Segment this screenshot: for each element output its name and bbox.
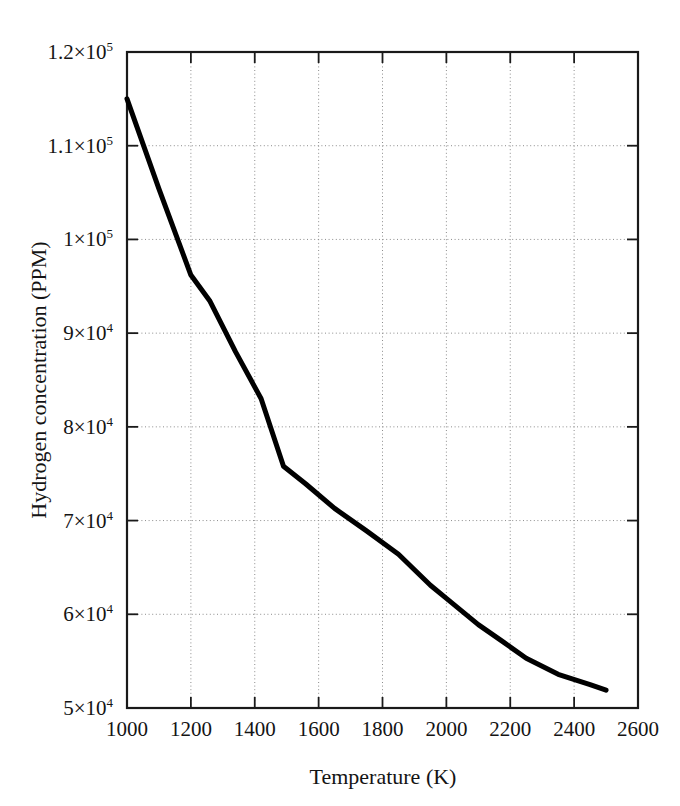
y-tick-exponent: 5 <box>107 226 114 241</box>
y-tick-label: 1.1×105 <box>47 133 113 158</box>
x-tick-label: 1200 <box>170 717 212 741</box>
y-tick-mantissa: 5×10 <box>63 696 106 720</box>
figure-container: 100012001400160018002000220024002600 5×1… <box>0 0 680 806</box>
y-tick-mantissa: 8×10 <box>63 415 106 439</box>
x-tick-label: 1600 <box>298 717 340 741</box>
x-tick-label: 1400 <box>234 717 276 741</box>
y-tick-label: 8×104 <box>63 414 113 439</box>
chart-background <box>0 0 680 806</box>
hydrogen-concentration-line-chart: 100012001400160018002000220024002600 5×1… <box>0 0 680 806</box>
x-tick-label: 2600 <box>617 717 659 741</box>
y-tick-exponent: 4 <box>107 695 114 710</box>
x-axis-tick-labels: 100012001400160018002000220024002600 <box>106 717 659 741</box>
y-tick-mantissa: 1×10 <box>63 227 106 251</box>
y-axis-title: Hydrogen concentration (PPM) <box>26 241 51 518</box>
x-tick-label: 2000 <box>425 717 467 741</box>
y-tick-exponent: 4 <box>107 320 114 335</box>
y-tick-exponent: 5 <box>107 39 114 54</box>
y-tick-mantissa: 1.2×10 <box>47 40 106 64</box>
x-tick-label: 1800 <box>362 717 404 741</box>
y-tick-label: 7×104 <box>63 508 113 533</box>
y-tick-mantissa: 6×10 <box>63 602 106 626</box>
y-tick-exponent: 5 <box>107 133 114 148</box>
y-tick-label: 1.2×105 <box>47 39 113 64</box>
y-tick-label: 6×104 <box>63 601 113 626</box>
y-tick-label: 5×104 <box>63 695 113 720</box>
x-axis-title: Temperature (K) <box>310 764 457 789</box>
y-tick-label: 1×105 <box>63 226 113 251</box>
x-tick-label: 2200 <box>489 717 531 741</box>
y-tick-exponent: 4 <box>107 508 114 523</box>
y-tick-mantissa: 9×10 <box>63 321 106 345</box>
x-tick-label: 2400 <box>553 717 595 741</box>
y-tick-exponent: 4 <box>107 601 114 616</box>
y-tick-exponent: 4 <box>107 414 114 429</box>
y-tick-mantissa: 7×10 <box>63 509 106 533</box>
y-tick-label: 9×104 <box>63 320 113 345</box>
x-tick-label: 1000 <box>106 717 148 741</box>
y-tick-mantissa: 1.1×10 <box>47 134 106 158</box>
